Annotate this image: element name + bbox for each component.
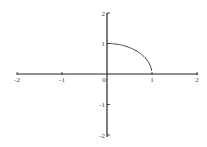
- x-tick-label: 0: [102, 76, 106, 84]
- x-tick-label: 2: [195, 76, 199, 84]
- y-tick-label: 2: [102, 10, 106, 18]
- chart: -2-101221-1-2: [0, 0, 207, 147]
- y-tick-label: -1: [99, 101, 105, 109]
- y-tick-label: 1: [102, 40, 106, 48]
- x-tick-label: -2: [14, 76, 20, 84]
- y-tick-label: -2: [99, 132, 105, 140]
- curve-line: [107, 44, 152, 71]
- x-tick-label: -1: [59, 76, 65, 84]
- x-tick-label: 1: [150, 76, 154, 84]
